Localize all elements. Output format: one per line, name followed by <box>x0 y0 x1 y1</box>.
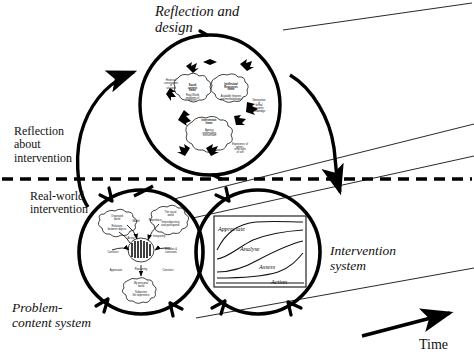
blob-social-world-title: The social world <box>157 212 184 217</box>
label-time: Time <box>419 337 448 353</box>
blob-intervention-title: Intervention frame <box>196 120 222 125</box>
blob-intellectual-resources-body: Available theories and methodologies <box>216 96 246 101</box>
problem-core-hatch <box>132 240 150 258</box>
blob-social-world-body: Intersubjectivity and participants <box>156 222 185 227</box>
problem-arrow-label-3: Integrating <box>150 236 168 239</box>
figure-canvas: Reflection and design Reflection about i… <box>0 0 474 363</box>
problem-arrow-label-6: Appreciate <box>106 270 126 273</box>
problem-arrow-label-4: Construct <box>104 252 122 255</box>
problem-arrow-label-2: Acting <box>124 238 138 241</box>
blob-organised-world-body: Relations between objects <box>103 226 131 231</box>
label-reflection-about-intervention: Reflection about intervention <box>14 125 72 165</box>
chart-curve-label-action: Action <box>271 278 287 285</box>
problem-arrow-label-1: Reproduce <box>146 220 164 223</box>
blob-intervention-body: Agency, undertaking, intervention <box>195 130 224 138</box>
blob-personal-world-body: Subjective life experience <box>127 292 155 297</box>
chart-curve-label-appreciate: Appreciate <box>218 225 245 232</box>
note-historical-label: Historical construction of situation <box>160 80 182 91</box>
problem-arrow-label-8: Construct <box>158 270 178 273</box>
page-title-reflection-design: Reflection and design <box>155 3 239 35</box>
problem-arrow-label-5: Enables & constrains <box>160 249 182 254</box>
problem-arrow-label-7: Reasoning <box>130 269 152 272</box>
label-real-world-intervention: Real-world intervention <box>30 190 88 217</box>
blob-social-context-body: Real-World problems of interest <box>179 95 206 103</box>
blob-social-context-title: Social context frame <box>180 85 205 93</box>
reflection-about-intervention-arrow <box>78 72 134 207</box>
blob-personal-world-title: My personal world <box>128 283 154 288</box>
chart-curve-label-assess: Assess <box>259 263 275 270</box>
label-intervention-system: Intervention system <box>330 243 396 273</box>
problem-arrow-label-0: Model <box>128 221 144 224</box>
label-problem-content-system: Problem- content system <box>12 300 91 330</box>
note-experience-label: Experience of others, reflections of sel… <box>228 144 252 155</box>
blob-intellectual-resources-title: Intellectual Resources frame <box>217 84 245 92</box>
note-generation-label: Generation of formal systems knowledge <box>248 100 270 114</box>
blob-organised-world-title: Organised world <box>104 216 130 221</box>
time-direction-arrow <box>362 313 450 336</box>
real-world-intervention-arrow <box>290 75 340 192</box>
chart-curve-label-analyse: Analyse <box>240 245 260 252</box>
